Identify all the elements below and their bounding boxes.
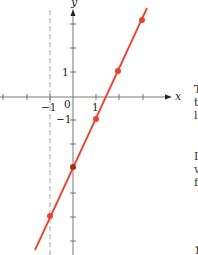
y-tick-label-neg1: −1 [56,113,71,125]
data-point [93,116,99,122]
side-text-fragment: t [194,97,198,108]
origin-label: 0 [64,98,71,110]
x-axis-label: x [175,90,182,103]
side-text-fragment: v [194,164,198,175]
y-tick-label-1: 1 [62,66,69,78]
side-text-fragment: 1 [194,245,198,255]
data-point [115,68,121,74]
x-tick-label-neg1: −1 [41,101,56,113]
x-tick-label-1: 1 [92,101,99,113]
y-axis-arrow-icon [71,9,76,16]
data-point [70,164,76,170]
side-text-fragment: l [194,110,198,121]
data-point [139,17,145,23]
x-axis-arrow-icon [165,95,172,100]
side-text-fragment: f [194,177,198,188]
data-point [47,213,53,219]
y-axis-label: y [70,0,78,9]
line-graph: x y −1 0 1 1 −1 [0,0,198,255]
side-text-fragment: T [194,84,198,95]
side-text-fragment: I [194,151,198,162]
